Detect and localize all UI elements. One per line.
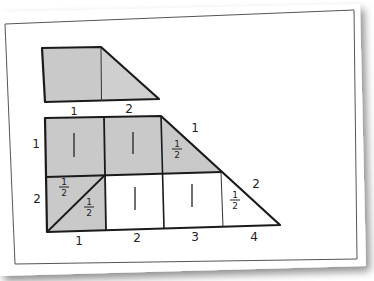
diagonal-label-2: 2 [252, 177, 260, 191]
small-rect-part [42, 47, 101, 102]
left-label-2: 2 [33, 192, 41, 206]
bottom-label-4: 4 [250, 230, 258, 244]
diagonal-label-1: 1 [191, 121, 199, 135]
diagram-canvas: 1 2 1 2 1 2 1 2 3 4 1 [0, 0, 374, 281]
svg-text:2: 2 [232, 201, 238, 211]
small-bottom-label-2: 2 [125, 102, 133, 116]
svg-text:1: 1 [86, 197, 92, 207]
svg-text:1: 1 [232, 190, 238, 200]
cell-top-1 [45, 117, 105, 177]
left-label-1: 1 [32, 137, 40, 151]
small-bottom-label-1: 1 [71, 105, 78, 118]
svg-text:1: 1 [174, 139, 180, 149]
svg-text:2: 2 [174, 150, 180, 160]
bottom-label-1: 1 [75, 234, 83, 248]
svg-text:2: 2 [61, 188, 67, 198]
small-divider [101, 47, 102, 101]
bottom-label-3: 3 [191, 230, 199, 244]
svg-text:2: 2 [86, 208, 92, 218]
bottom-label-2: 2 [133, 231, 141, 245]
svg-text:1: 1 [61, 177, 67, 187]
